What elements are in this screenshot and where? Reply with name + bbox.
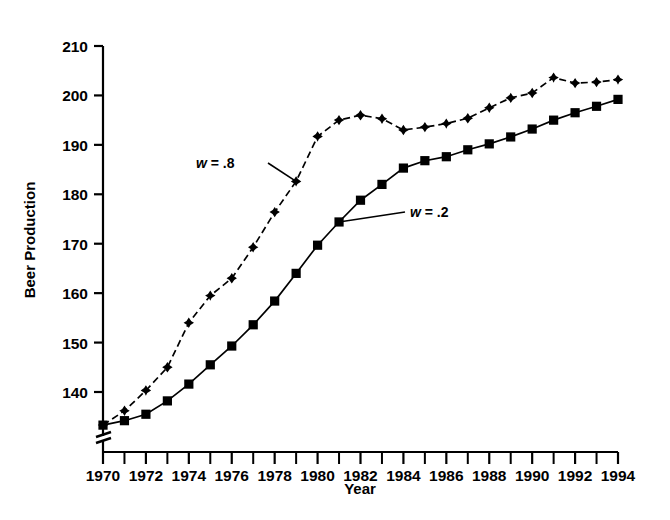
series-layer	[98, 72, 623, 430]
y-axis-title: Beer Production	[21, 182, 38, 299]
x-axis-title: Year	[344, 480, 376, 497]
x-tick-label-1988: 1988	[472, 467, 507, 484]
leader-line-w8	[268, 163, 296, 181]
data-point	[570, 78, 580, 88]
x-tick-label-1972: 1972	[129, 467, 163, 484]
series-line	[103, 78, 618, 426]
data-point	[184, 318, 194, 328]
data-point	[442, 152, 451, 161]
y-tick-label-200: 200	[62, 87, 88, 104]
data-point	[463, 145, 472, 154]
y-tick-group: 210200190180170160150140	[62, 38, 103, 401]
beer-production-chart: 210200190180170160150140 197019721974197…	[0, 0, 670, 520]
data-point	[227, 341, 236, 350]
x-tick-label-1980: 1980	[300, 467, 334, 484]
data-point	[613, 95, 622, 104]
chart-canvas: 210200190180170160150140 197019721974197…	[0, 0, 670, 520]
data-point	[119, 406, 129, 416]
data-point	[270, 207, 280, 217]
y-tick-label-160: 160	[62, 285, 88, 302]
x-tick-label-1974: 1974	[172, 467, 207, 484]
data-point	[120, 416, 129, 425]
data-point	[398, 125, 408, 135]
x-tick-label-1992: 1992	[558, 467, 592, 484]
series-annotation-w2: w = .2	[410, 204, 449, 220]
data-point	[528, 124, 537, 133]
data-point	[184, 379, 193, 388]
data-point	[377, 180, 386, 189]
data-point	[248, 242, 258, 252]
series-w2	[98, 95, 622, 430]
series-annotation-w8-rest: = .8	[207, 155, 235, 171]
data-point	[206, 360, 215, 369]
x-tick-label-1986: 1986	[429, 467, 464, 484]
data-point	[420, 122, 430, 132]
y-tick-label-190: 190	[62, 137, 88, 154]
data-point	[592, 102, 601, 111]
x-tick-label-1970: 1970	[86, 467, 120, 484]
data-point	[591, 77, 601, 87]
data-point	[549, 116, 558, 125]
series-annotation-w8: w = .8	[196, 155, 235, 171]
data-point	[292, 269, 301, 278]
y-tick-label-210: 210	[62, 38, 88, 55]
data-point	[506, 132, 515, 141]
data-point	[98, 421, 107, 430]
y-tick-label-170: 170	[62, 236, 88, 253]
data-point	[313, 241, 322, 250]
data-point	[463, 113, 473, 123]
data-point	[506, 93, 516, 103]
data-point	[613, 74, 623, 84]
data-point	[399, 163, 408, 172]
data-point	[484, 103, 494, 113]
x-tick-label-1978: 1978	[257, 467, 292, 484]
data-point	[356, 196, 365, 205]
series-line	[103, 99, 618, 425]
x-tick-label-1990: 1990	[515, 467, 549, 484]
y-tick-label-150: 150	[62, 335, 88, 352]
data-point	[163, 396, 172, 405]
data-point	[570, 108, 579, 117]
leader-line-w2	[339, 212, 405, 222]
data-point	[270, 296, 279, 305]
data-point	[377, 114, 387, 124]
data-point	[420, 156, 429, 165]
data-point	[441, 118, 451, 128]
x-tick-label-1994: 1994	[601, 467, 636, 484]
y-tick-label-180: 180	[62, 186, 88, 203]
x-tick-label-1984: 1984	[386, 467, 421, 484]
data-point	[485, 139, 494, 148]
x-tick-label-1976: 1976	[215, 467, 250, 484]
y-tick-label-140: 140	[62, 384, 88, 401]
data-point	[249, 320, 258, 329]
data-point	[355, 110, 365, 120]
series-w8	[98, 72, 623, 430]
series-annotation-w2-rest: = .2	[421, 204, 449, 220]
data-point	[141, 410, 150, 419]
